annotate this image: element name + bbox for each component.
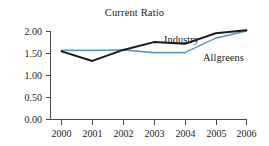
x-tick-label-2003: 2003 [145, 128, 165, 139]
series-annotation-allgreens: Allgreens [203, 52, 244, 63]
y-tick-label-1_5: 1.50 [25, 48, 43, 59]
x-tick-label-2001: 2001 [83, 128, 103, 139]
series-annotation-industry: Industry [164, 34, 200, 45]
y-tick-label-2: 2.00 [25, 26, 43, 37]
x-axis-ticks [62, 120, 247, 126]
y-tick-label-1: 1.00 [25, 70, 43, 81]
chart-plot-area: 2.00 1.50 1.00 0.50 0.00 2000 2001 2002 … [0, 0, 269, 146]
x-tick-label-2006: 2006 [237, 128, 257, 139]
y-tick-label-0: 0.00 [25, 114, 43, 125]
current-ratio-chart: Current Ratio 2.00 1.50 1.00 0.50 0.00 [0, 0, 269, 146]
x-tick-label-2002: 2002 [114, 128, 134, 139]
x-tick-label-2000: 2000 [52, 128, 72, 139]
y-axis-ticks [46, 32, 51, 120]
x-tick-label-2004: 2004 [176, 128, 196, 139]
y-tick-label-0_5: 0.50 [25, 92, 43, 103]
x-tick-label-2005: 2005 [207, 128, 227, 139]
